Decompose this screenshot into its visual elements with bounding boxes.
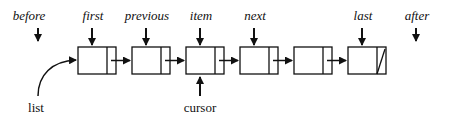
label-previous: previous bbox=[124, 8, 169, 23]
list-node-0 bbox=[78, 47, 116, 74]
label-before: before bbox=[13, 8, 46, 23]
label-last: last bbox=[354, 8, 373, 23]
list-head-arrow-icon bbox=[38, 60, 76, 96]
label-after: after bbox=[405, 8, 430, 23]
list-node-3 bbox=[240, 47, 278, 74]
list-node-5 bbox=[348, 47, 386, 74]
list-node-2 bbox=[186, 47, 224, 74]
list-node-4 bbox=[294, 47, 332, 74]
label-item: item bbox=[190, 8, 212, 23]
list-node-1 bbox=[132, 47, 170, 74]
label-next: next bbox=[244, 8, 266, 23]
label-first: first bbox=[83, 8, 104, 23]
label-cursor: cursor bbox=[184, 100, 217, 115]
linked-list-diagram: before first previous item next last aft… bbox=[0, 0, 451, 117]
label-list: list bbox=[28, 100, 44, 115]
